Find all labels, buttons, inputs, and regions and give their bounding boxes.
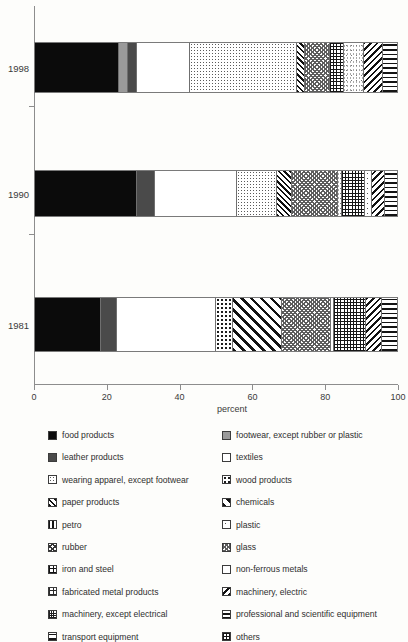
- bar-segment: [277, 171, 292, 216]
- bar-segment: [35, 298, 101, 351]
- legend-swatch-icon: [48, 565, 57, 574]
- legend-item[interactable]: others: [222, 632, 260, 642]
- bar-segment: [117, 298, 216, 351]
- x-tick: [34, 385, 35, 390]
- chart-legend: food productsfootwear, except rubber or …: [0, 420, 408, 637]
- legend-swatch-icon: [222, 520, 231, 529]
- x-tick: [252, 385, 253, 390]
- y-tick-label-1998: 1998: [8, 62, 29, 73]
- y-tick: [29, 234, 35, 235]
- legend-swatch-icon: [48, 475, 57, 484]
- legend-label: machinery, electric: [236, 587, 307, 597]
- legend-item[interactable]: textiles: [222, 452, 263, 462]
- legend-swatch-icon: [48, 498, 57, 507]
- bar-segment: [372, 171, 385, 216]
- legend-item[interactable]: transport equipment: [48, 632, 138, 642]
- bar-segment: [128, 43, 137, 92]
- legend-item[interactable]: machinery, electric: [222, 587, 307, 597]
- legend-item[interactable]: glass: [222, 542, 256, 552]
- bar-segment: [137, 171, 155, 216]
- bar-segment: [330, 43, 344, 92]
- legend-swatch-icon: [222, 543, 231, 552]
- legend-item[interactable]: wearing apparel, except footwear: [48, 475, 189, 485]
- bar-segment: [382, 298, 397, 351]
- legend-label: wearing apparel, except footwear: [62, 475, 189, 485]
- bar-segment: [366, 298, 382, 351]
- legend-swatch-icon: [48, 632, 57, 641]
- bar-segment: [237, 171, 277, 216]
- legend-item[interactable]: petro: [48, 520, 82, 530]
- x-tick: [398, 385, 399, 390]
- x-tick: [107, 385, 108, 390]
- bar-1990: [34, 170, 398, 217]
- legend-item[interactable]: paper products: [48, 497, 119, 507]
- legend-item[interactable]: iron and steel: [48, 564, 114, 574]
- legend-item[interactable]: wood products: [222, 475, 292, 485]
- x-axis-line: [34, 384, 398, 385]
- bar-segment: [216, 298, 233, 351]
- legend-item[interactable]: leather products: [48, 452, 124, 462]
- legend-label: non-ferrous metals: [236, 564, 308, 574]
- legend-swatch-icon: [222, 475, 231, 484]
- legend-swatch-icon: [48, 543, 57, 552]
- legend-item[interactable]: footwear, except rubber or plastic: [222, 430, 363, 440]
- bar-segment: [297, 43, 305, 92]
- legend-label: food products: [62, 430, 114, 440]
- x-tick-label: 40: [175, 392, 185, 402]
- legend-label: wood products: [236, 475, 292, 485]
- legend-item[interactable]: machinery, except electrical: [48, 609, 167, 619]
- legend-swatch-icon: [222, 498, 231, 507]
- x-tick-label: 100: [390, 392, 405, 402]
- bar-segment: [344, 43, 364, 92]
- legend-swatch-icon: [222, 453, 231, 462]
- legend-swatch-icon: [48, 453, 57, 462]
- legend-swatch-icon: [48, 431, 57, 440]
- bar-segment: [137, 43, 190, 92]
- legend-label: iron and steel: [62, 564, 114, 574]
- legend-label: glass: [236, 542, 256, 552]
- bar-segment: [292, 171, 338, 216]
- legend-swatch-icon: [48, 520, 57, 529]
- legend-swatch-icon: [48, 587, 57, 596]
- x-axis-title: percent: [217, 404, 247, 414]
- legend-swatch-icon: [222, 610, 231, 619]
- bar-segment: [119, 43, 128, 92]
- legend-label: fabricated metal products: [62, 587, 159, 597]
- y-tick-label-1990: 1990: [8, 188, 29, 199]
- legend-item[interactable]: non-ferrous metals: [222, 564, 308, 574]
- bar-segment: [101, 298, 117, 351]
- legend-item[interactable]: food products: [48, 430, 114, 440]
- legend-item[interactable]: rubber: [48, 542, 87, 552]
- y-tick: [29, 106, 35, 107]
- x-tick-label: 60: [247, 392, 257, 402]
- bar-segment: [35, 43, 119, 92]
- x-tick-label: 0: [31, 392, 36, 402]
- bar-segment: [155, 171, 237, 216]
- bar-segment: [383, 43, 397, 92]
- legend-swatch-icon: [222, 632, 231, 641]
- legend-label: leather products: [62, 452, 124, 462]
- legend-swatch-icon: [48, 610, 57, 619]
- legend-item[interactable]: plastic: [222, 520, 260, 530]
- legend-label: professional and scientific equipment: [236, 609, 377, 619]
- legend-label: footwear, except rubber or plastic: [236, 430, 363, 440]
- legend-label: machinery, except electrical: [62, 609, 167, 619]
- y-tick-label-1981: 1981: [8, 319, 29, 330]
- legend-swatch-icon: [222, 431, 231, 440]
- legend-label: chemicals: [236, 497, 274, 507]
- legend-item[interactable]: fabricated metal products: [48, 587, 159, 597]
- bar-1981: [34, 297, 398, 352]
- bar-segment: [364, 43, 383, 92]
- legend-label: textiles: [236, 452, 263, 462]
- legend-item[interactable]: professional and scientific equipment: [222, 609, 377, 619]
- bar-segment: [342, 171, 365, 216]
- legend-item[interactable]: chemicals: [222, 497, 274, 507]
- x-tick-label: 20: [102, 392, 112, 402]
- legend-label: paper products: [62, 497, 119, 507]
- bar-segment: [233, 298, 282, 351]
- legend-label: plastic: [236, 520, 260, 530]
- legend-label: rubber: [62, 542, 87, 552]
- bar-segment: [334, 298, 366, 351]
- bar-segment: [190, 43, 297, 92]
- bar-segment: [282, 298, 331, 351]
